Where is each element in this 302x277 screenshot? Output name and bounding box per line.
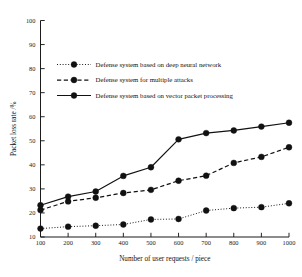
x-tick-label: 500 xyxy=(146,239,156,246)
data-point-marker: Defense system based on deep neural netw… xyxy=(65,224,71,230)
y-tick-label: 100 xyxy=(26,17,36,24)
data-point-marker: Defense system for multiple attacks: (70… xyxy=(203,173,209,179)
series-line-0 xyxy=(41,203,290,228)
legend-label-1: Defense system for multiple attacks xyxy=(96,76,194,83)
data-point-marker: Defense system based on deep neural netw… xyxy=(120,222,126,228)
chart-figure: 1020304050607080901001002003004005006007… xyxy=(0,0,302,277)
x-tick-label: 100 xyxy=(36,239,46,246)
x-tick-label: 300 xyxy=(91,239,101,246)
series-line-2 xyxy=(41,123,290,206)
y-tick-label: 40 xyxy=(29,161,35,168)
data-point-marker: Defense system based on deep neural netw… xyxy=(93,223,99,229)
data-series: Defense system based on deep neural netw… xyxy=(38,120,292,232)
x-axis-title: Number of user requests / piece xyxy=(119,255,210,263)
data-point-marker: Defense system based on vector packet pr… xyxy=(176,136,182,142)
x-tick-label: 900 xyxy=(257,239,267,246)
tick-labels: 1020304050607080901001002003004005006007… xyxy=(26,17,295,246)
data-point-marker: Defense system for multiple attacks: (10… xyxy=(286,144,292,150)
x-tick-label: 1000 xyxy=(283,239,296,246)
chart-legend: Defense system based on deep neural netw… xyxy=(57,61,234,99)
legend-marker-1 xyxy=(71,77,77,83)
data-point-marker: Defense system for multiple attacks: (50… xyxy=(148,187,154,193)
y-tick-label: 10 xyxy=(29,233,35,240)
y-tick-label: 20 xyxy=(29,209,35,216)
y-tick-label: 70 xyxy=(29,89,35,96)
x-tick-label: 700 xyxy=(201,239,211,246)
data-point-marker: Defense system based on vector packet pr… xyxy=(38,202,44,208)
axes xyxy=(41,21,290,238)
series-line-1 xyxy=(41,147,290,210)
data-point-marker: Defense system based on vector packet pr… xyxy=(93,189,99,195)
x-tick-label: 200 xyxy=(63,239,73,246)
data-point-marker: Defense system for multiple attacks: (60… xyxy=(176,178,182,184)
data-point-marker: Defense system based on deep neural netw… xyxy=(286,200,292,206)
data-point-marker: Defense system for multiple attacks: (40… xyxy=(120,190,126,196)
legend-marker-0 xyxy=(71,62,77,68)
data-point-marker: Defense system based on deep neural netw… xyxy=(258,204,264,210)
data-point-marker: Defense system based on deep neural netw… xyxy=(203,208,209,214)
data-point-marker: Defense system for multiple attacks: (80… xyxy=(231,160,237,166)
data-point-marker: Defense system based on vector packet pr… xyxy=(148,164,154,170)
y-tick-label: 60 xyxy=(29,113,35,120)
y-tick-label: 30 xyxy=(29,185,35,192)
data-point-marker: Defense system based on vector packet pr… xyxy=(231,127,237,133)
line-chart: 1020304050607080901001002003004005006007… xyxy=(0,0,302,277)
data-point-marker: Defense system based on vector packet pr… xyxy=(203,130,209,136)
legend-marker-2 xyxy=(71,93,77,99)
data-point-marker: Defense system based on vector packet pr… xyxy=(65,194,71,200)
data-point-marker: Defense system based on vector packet pr… xyxy=(258,124,264,130)
legend-label-0: Defense system based on deep neural netw… xyxy=(96,61,222,68)
y-tick-label: 80 xyxy=(29,65,35,72)
data-point-marker: Defense system based on vector packet pr… xyxy=(286,120,292,126)
y-axis-title: Packet loss rate /% xyxy=(10,101,18,156)
data-point-marker: Defense system based on deep neural netw… xyxy=(148,216,154,222)
data-point-marker: Defense system based on deep neural netw… xyxy=(38,226,44,232)
data-point-marker: Defense system based on deep neural netw… xyxy=(176,216,182,222)
x-tick-label: 800 xyxy=(229,239,239,246)
x-tick-label: 600 xyxy=(174,239,184,246)
data-point-marker: Defense system for multiple attacks: (90… xyxy=(258,154,264,160)
data-point-marker: Defense system for multiple attacks: (30… xyxy=(93,195,99,201)
y-tick-label: 90 xyxy=(29,41,35,48)
y-tick-label: 50 xyxy=(29,137,35,144)
data-point-marker: Defense system based on deep neural netw… xyxy=(231,205,237,211)
data-point-marker: Defense system based on vector packet pr… xyxy=(120,173,126,179)
x-tick-label: 400 xyxy=(119,239,129,246)
legend-label-2: Defense system based on vector packet pr… xyxy=(96,92,234,99)
